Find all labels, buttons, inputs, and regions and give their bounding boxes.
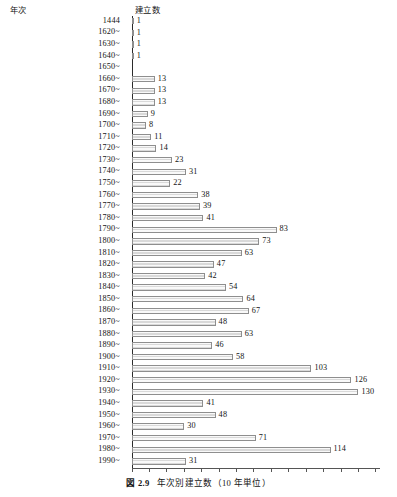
value-axis-line <box>132 468 380 469</box>
bar-row: 1900~58 <box>0 353 397 361</box>
bar-value-label: 63 <box>245 329 254 338</box>
bar-row-category-label: 1630~ <box>6 39 126 48</box>
caption-spacer <box>150 478 157 488</box>
bar-value-label: 8 <box>149 120 153 129</box>
bar-row-category-label: 1444 <box>6 16 126 25</box>
bar-row-category-label: 1850~ <box>6 294 126 303</box>
bar-fill <box>132 261 214 267</box>
bar-fill <box>132 331 242 337</box>
bar-row: 1820~47 <box>0 261 397 269</box>
bar-row-category-label: 1760~ <box>6 190 126 199</box>
bar-fill <box>132 400 203 406</box>
bar-value-label: 114 <box>334 444 347 453</box>
bar-fill <box>132 192 198 198</box>
bar <box>132 389 358 395</box>
bar <box>132 99 155 105</box>
bar-value-label: 58 <box>236 352 245 361</box>
bar-value-label: 13 <box>158 74 167 83</box>
bar-fill <box>132 342 212 348</box>
bar-row-category-label: 1680~ <box>6 97 126 106</box>
axis-tick <box>306 468 307 472</box>
bar-row: 1840~54 <box>0 284 397 292</box>
bar <box>132 18 134 24</box>
bar <box>132 319 216 325</box>
bar-fill <box>132 308 249 314</box>
bar <box>132 227 277 233</box>
bar-row: 1660~13 <box>0 75 397 83</box>
bar-row-category-label: 1930~ <box>6 386 126 395</box>
bar-row-category-label: 1920~ <box>6 375 126 384</box>
bar-fill <box>132 18 134 24</box>
bar-row: 1750~22 <box>0 180 397 188</box>
caption-figure-number: 図 2.9 <box>126 478 149 488</box>
bar-row: 1910~103 <box>0 365 397 373</box>
bar <box>132 261 214 267</box>
figure-caption: 図 2.9 年次別建立数（10 年単位） <box>0 476 397 488</box>
bar <box>132 192 198 198</box>
bar <box>132 157 172 163</box>
bar <box>132 41 134 47</box>
bar-row: 1830~42 <box>0 272 397 280</box>
bar <box>132 447 331 453</box>
bar-value-label: 22 <box>173 178 182 187</box>
bar-value-label: 1 <box>137 28 141 37</box>
bar-row-category-label: 1710~ <box>6 132 126 141</box>
bar-value-label: 11 <box>154 132 162 141</box>
bar-fill <box>132 88 155 94</box>
bar-value-label: 126 <box>354 375 367 384</box>
header-count: 建立数 <box>135 3 160 15</box>
bar-row: 14441 <box>0 18 397 26</box>
bar-row: 1690~9 <box>0 110 397 118</box>
bar-row-category-label: 1650~ <box>6 62 126 71</box>
bar-row-category-label: 1880~ <box>6 329 126 338</box>
bar-row-category-label: 1820~ <box>6 259 126 268</box>
bar <box>132 331 242 337</box>
bar-value-label: 83 <box>280 224 289 233</box>
bar-row: 1980~114 <box>0 446 397 454</box>
axis-tick <box>184 468 185 472</box>
bar-fill <box>132 435 256 441</box>
bar-row: 1790~83 <box>0 226 397 234</box>
bar-row: 1870~48 <box>0 319 397 327</box>
bar <box>132 30 134 36</box>
bar-row: 1780~41 <box>0 214 397 222</box>
column-headers: 年次 建立数 <box>0 3 397 16</box>
bar-row-category-label: 1980~ <box>6 444 126 453</box>
bar-value-label: 67 <box>252 306 261 315</box>
bar-value-label: 63 <box>245 248 254 257</box>
bar-value-label: 38 <box>201 190 210 199</box>
axis-tick <box>341 468 342 472</box>
bar-row-category-label: 1700~ <box>6 120 126 129</box>
bar-fill <box>132 284 226 290</box>
bar <box>132 238 259 244</box>
bar-row: 1950~48 <box>0 411 397 419</box>
bar-row: 1740~31 <box>0 168 397 176</box>
bar-row-category-label: 1990~ <box>6 456 126 465</box>
bar-fill <box>132 30 134 36</box>
bar-fill <box>132 377 351 383</box>
bar-row-category-label: 1780~ <box>6 213 126 222</box>
bar-row: 1720~14 <box>0 145 397 153</box>
bar-fill <box>132 111 148 117</box>
bar-value-label: 1 <box>137 51 141 60</box>
bar-fill <box>132 169 186 175</box>
bar-row: 1630~1 <box>0 41 397 49</box>
bar-fill <box>132 296 243 302</box>
bar-value-label: 64 <box>246 294 255 303</box>
bar-row-category-label: 1800~ <box>6 236 126 245</box>
bar <box>132 145 156 151</box>
bar-fill <box>132 203 200 209</box>
bar-fill <box>132 412 216 418</box>
bar-row: 1800~73 <box>0 238 397 246</box>
bar-value-label: 39 <box>203 201 212 210</box>
bar-row: 1650~ <box>0 64 397 72</box>
bar <box>132 296 243 302</box>
bar <box>132 203 200 209</box>
bar-fill <box>132 423 184 429</box>
figure-container: 年次 建立数 144411620~11630~11640~11650~1660~… <box>0 0 397 497</box>
bar-row-category-label: 1860~ <box>6 305 126 314</box>
bar <box>132 308 249 314</box>
bar-value-label: 71 <box>259 433 268 442</box>
bar-row: 1680~13 <box>0 99 397 107</box>
bar-value-label: 130 <box>361 387 374 396</box>
